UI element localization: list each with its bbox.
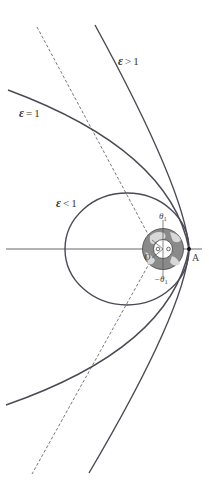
theta-lower-label: −θ1 [154, 274, 168, 285]
center-o-label: O [144, 252, 151, 262]
orbit-diagram: A O θ1 −θ1 ε>1 ε=1 ε<1 [0, 0, 209, 481]
parabola-label: ε=1 [19, 106, 40, 120]
point-a-marker [187, 247, 191, 251]
theta-upper-label: θ1 [159, 211, 167, 222]
point-a-label: A [192, 252, 200, 263]
ellipse-label: ε<1 [56, 196, 77, 210]
focus-marker-left [156, 247, 160, 251]
focus-marker-right [167, 247, 171, 251]
hyperbola-label: ε>1 [118, 54, 139, 68]
